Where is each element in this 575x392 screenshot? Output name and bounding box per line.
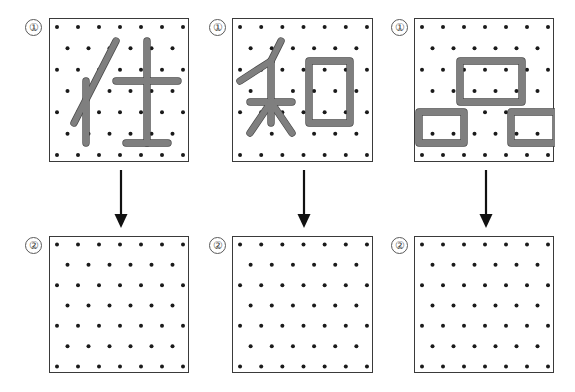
peg-dot [483, 324, 487, 328]
peg-dot [291, 304, 295, 308]
peg-dot [431, 89, 435, 93]
peg-dot [171, 132, 175, 136]
peg-dot [76, 153, 80, 157]
down-arrow-2 [293, 170, 315, 230]
peg-dot [504, 283, 508, 287]
peg-dot [536, 344, 540, 348]
peg-dot [129, 132, 133, 136]
band-top-wide-rectangle [460, 61, 522, 102]
peg-dot [333, 46, 337, 50]
peg-dot [129, 46, 133, 50]
peg-dot [291, 89, 295, 93]
peg-dot [302, 364, 306, 368]
down-arrow-2-glyph [293, 170, 315, 230]
peg-dot [129, 344, 133, 348]
peg-dot [344, 153, 348, 157]
peg-dot [365, 153, 369, 157]
peg-dot [160, 110, 164, 114]
peg-dot [525, 153, 529, 157]
peg-dot [344, 243, 348, 247]
band-bottom-right-rectangle [511, 112, 555, 143]
peg-dot [546, 364, 550, 368]
peg-dot [160, 324, 164, 328]
peg-dot [504, 243, 508, 247]
peg-dot [280, 324, 284, 328]
peg-dot [483, 110, 487, 114]
peg-dot [441, 283, 445, 287]
peg-dot [249, 89, 253, 93]
peg-dot [129, 263, 133, 267]
peg-dot [483, 283, 487, 287]
peg-dot [546, 25, 550, 29]
peg-dot [333, 89, 337, 93]
peg-dot [160, 364, 164, 368]
peg-dot [431, 46, 435, 50]
peg-dot [312, 46, 316, 50]
peg-dot [55, 324, 59, 328]
peg-dot [302, 283, 306, 287]
peg-dot [280, 25, 284, 29]
peg-dot [160, 68, 164, 72]
peg-dot [139, 25, 143, 29]
peg-dot [515, 304, 519, 308]
peg-dot [160, 283, 164, 287]
peg-dot [66, 344, 70, 348]
peg-dot [452, 89, 456, 93]
peg-dot [312, 344, 316, 348]
down-arrow-3-glyph [475, 170, 497, 230]
peg-dot [270, 344, 274, 348]
peg-dot [181, 283, 185, 287]
peg-dot [238, 243, 242, 247]
bands-three-rectangles [419, 61, 555, 143]
peg-dot [249, 46, 253, 50]
peg-dot [270, 304, 274, 308]
peg-dot [171, 263, 175, 267]
peg-dot [139, 68, 143, 72]
peg-dot [365, 25, 369, 29]
panel-column-2-bottom-canvas [233, 237, 374, 374]
peg-dot [118, 68, 122, 72]
peg-dot [302, 153, 306, 157]
peg-dot [55, 283, 59, 287]
peg-dot [55, 153, 59, 157]
peg-dot [55, 68, 59, 72]
peg-dot [365, 283, 369, 287]
peg-dot [354, 46, 358, 50]
peg-dot [66, 132, 70, 136]
panel-column-1-top-canvas [50, 19, 190, 163]
peg-dot [97, 364, 101, 368]
panel-column-2-bottom [232, 236, 373, 373]
peg-dot [354, 304, 358, 308]
peg-dot [420, 243, 424, 247]
peg-dot [344, 283, 348, 287]
peg-dot [431, 132, 435, 136]
peg-dot [441, 364, 445, 368]
peg-dot [462, 25, 466, 29]
peg-dot [473, 344, 477, 348]
peg-dot [55, 110, 59, 114]
peg-dot [291, 46, 295, 50]
peg-dot [108, 132, 112, 136]
peg-dot [473, 89, 477, 93]
peg-dot [280, 364, 284, 368]
peg-dot [238, 324, 242, 328]
peg-dot [238, 110, 242, 114]
peg-dot [546, 324, 550, 328]
peg-dot [108, 89, 112, 93]
peg-dot [171, 344, 175, 348]
peg-dot [365, 324, 369, 328]
peg-dot [139, 324, 143, 328]
peg-dot [249, 304, 253, 308]
peg-grid-1-bottom [55, 243, 185, 369]
peg-dot [280, 68, 284, 72]
panel-column-1-top [49, 18, 189, 162]
peg-dot [66, 89, 70, 93]
down-arrow-3 [475, 170, 497, 230]
peg-dot [150, 263, 154, 267]
peg-dot [452, 46, 456, 50]
peg-dot [504, 324, 508, 328]
peg-dot [483, 25, 487, 29]
peg-dot [97, 283, 101, 287]
peg-dot [76, 324, 80, 328]
peg-dot [452, 304, 456, 308]
